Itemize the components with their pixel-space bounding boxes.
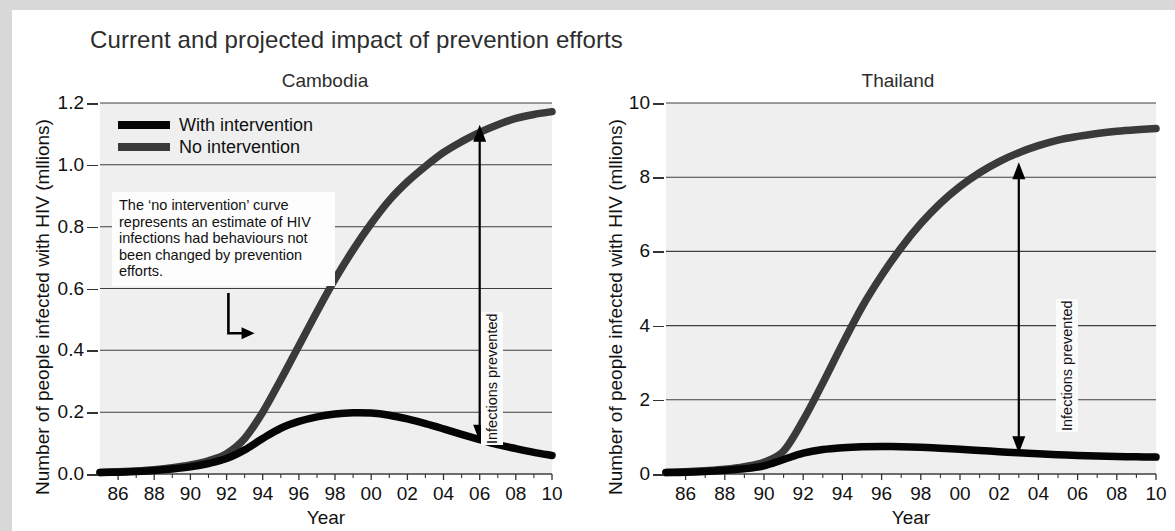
figure-root: Current and projected impact of preventi…	[0, 0, 1175, 531]
y-tick-label: 1.0	[0, 154, 84, 176]
x-tick-label: 90	[180, 483, 201, 505]
arrow-head-up	[1012, 162, 1025, 179]
y-tick-mark	[87, 350, 98, 352]
x-tick-label: 06	[1067, 483, 1088, 505]
y-tick-label: 0.8	[0, 216, 84, 238]
x-axis-label-cambodia: Year	[100, 507, 552, 529]
panel-title-cambodia: Cambodia	[95, 70, 555, 92]
y-tick-label: 0.2	[0, 401, 84, 423]
y-tick-mark	[87, 289, 98, 291]
y-tick-mark	[653, 326, 664, 328]
x-tick-label: 98	[910, 483, 931, 505]
x-tick-label: 02	[989, 483, 1010, 505]
legend-swatch-no-intervention	[118, 143, 170, 151]
figure-title: Current and projected impact of preventi…	[90, 26, 623, 54]
x-axis-label-thailand: Year	[666, 507, 1156, 529]
callout-leader-line	[228, 293, 244, 333]
x-tick-label: 02	[397, 483, 418, 505]
panel-cambodia: Cambodia Number of people infected with …	[0, 70, 570, 531]
x-tick-label: 04	[1028, 483, 1049, 505]
legend-label-with-intervention: With intervention	[179, 115, 313, 136]
plot-area-thailand	[666, 103, 1156, 474]
y-tick-label: 0.6	[0, 278, 84, 300]
legend-item-no-intervention: No intervention	[118, 136, 313, 158]
x-tick-label: 94	[252, 483, 273, 505]
y-tick-label: 4	[578, 315, 650, 337]
y-tick-mark	[87, 227, 98, 229]
y-tick-mark	[653, 251, 664, 253]
y-tick-label: 0.4	[0, 339, 84, 361]
x-tick-label: 96	[871, 483, 892, 505]
series-line-no-intervention	[666, 129, 1156, 473]
panel-title-thailand: Thailand	[663, 70, 1133, 92]
y-tick-label: 2	[578, 389, 650, 411]
y-tick-label: 8	[578, 166, 650, 188]
x-tick-label: 00	[949, 483, 970, 505]
x-tick-label: 86	[108, 483, 129, 505]
x-tick-label: 88	[714, 483, 735, 505]
y-tick-label: 10	[578, 92, 650, 114]
x-tick-label: 96	[288, 483, 309, 505]
x-tick-label: 08	[505, 483, 526, 505]
infections-prevented-arrow	[1012, 162, 1025, 453]
y-tick-mark	[653, 474, 664, 476]
callout-leader-arrowhead	[242, 327, 255, 339]
x-tick-label: 86	[675, 483, 696, 505]
annotation-callout: The ‘no intervention’ curve represents a…	[112, 192, 335, 286]
y-tick-mark	[87, 474, 98, 476]
y-tick-mark	[653, 400, 664, 402]
x-tick-label: 00	[361, 483, 382, 505]
y-tick-mark	[653, 103, 664, 105]
x-tick-label: 90	[753, 483, 774, 505]
x-tick-label: 08	[1106, 483, 1127, 505]
legend-cambodia: With intervention No intervention	[118, 114, 313, 158]
x-tick-label: 88	[144, 483, 165, 505]
x-tick-label: 94	[832, 483, 853, 505]
legend-item-with-intervention: With intervention	[118, 114, 313, 136]
x-tick-label: 06	[469, 483, 490, 505]
y-tick-mark	[87, 412, 98, 414]
infections-prevented-label-cambodia: Infections prevented	[481, 312, 503, 445]
y-tick-mark	[87, 165, 98, 167]
y-tick-label: 0.0	[0, 463, 84, 485]
x-tick-label: 04	[433, 483, 454, 505]
x-tick-label: 92	[793, 483, 814, 505]
x-tick-label: 10	[1145, 483, 1166, 505]
infections-prevented-label-thailand: Infections prevented	[1056, 299, 1078, 432]
series-line-with-intervention	[666, 447, 1156, 473]
y-tick-label: 6	[578, 240, 650, 262]
callout-leader	[228, 293, 254, 339]
legend-swatch-with-intervention	[118, 121, 170, 129]
y-tick-label: 0	[578, 463, 650, 485]
y-tick-label: 1.2	[0, 92, 84, 114]
x-tick-label: 98	[324, 483, 345, 505]
x-tick-label: 10	[541, 483, 562, 505]
legend-label-no-intervention: No intervention	[179, 137, 300, 158]
y-tick-mark	[87, 103, 98, 105]
y-tick-mark	[653, 177, 664, 179]
plot-svg-thailand	[666, 103, 1156, 474]
panel-thailand: Thailand Number of people infected with …	[578, 70, 1175, 531]
x-tick-label: 92	[216, 483, 237, 505]
